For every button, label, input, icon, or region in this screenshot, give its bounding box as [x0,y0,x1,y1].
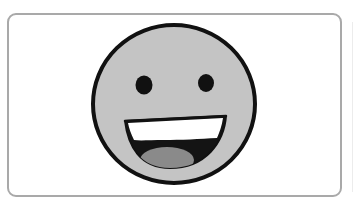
left-eye [136,76,153,95]
grinning-face-icon [0,0,355,202]
right-eye [198,74,214,92]
